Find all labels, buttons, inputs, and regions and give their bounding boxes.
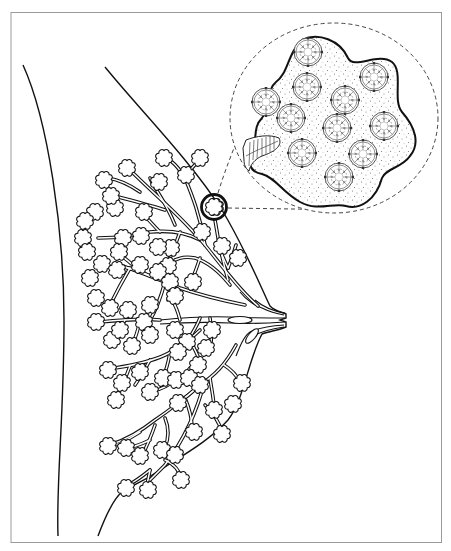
breast-anatomy-figure	[0, 0, 451, 551]
chest-wall-outline	[23, 65, 64, 536]
anatomy-illustration	[0, 0, 451, 551]
magnified-inset	[230, 23, 438, 213]
